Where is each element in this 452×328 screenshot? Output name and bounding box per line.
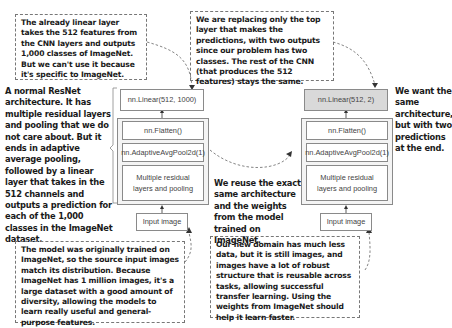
right-linear-layer: nn.Linear(512, 2)	[304, 89, 388, 111]
note-normal-resnet: A normal ResNet architecture. It has mul…	[5, 86, 117, 246]
note-want-same-architecture: We want the same architecture, but with …	[395, 86, 452, 154]
right-pool-layer: nn.AdaptiveAvgPool2d(1)	[306, 143, 388, 162]
note-imagenet-linear-layer: The already linear layer takes the 512 f…	[15, 14, 147, 80]
right-input-image: Input image	[320, 213, 372, 231]
right-residual-layers: Multiple residual layers and pooling	[306, 165, 388, 201]
left-flatten-layer: nn.Flatten()	[122, 121, 204, 140]
right-flatten-layer: nn.Flatten()	[306, 121, 388, 140]
left-input-image: Input image	[136, 213, 188, 231]
note-replacing-top-layer: We are replacing only the top layer that…	[190, 11, 334, 81]
note-new-domain: Our new domain has much less data, but i…	[210, 236, 360, 318]
note-original-training: The model was originally trained on Imag…	[15, 241, 185, 323]
left-linear-layer: nn.Linear(512, 1000)	[120, 89, 204, 111]
left-pool-layer: nn.AdaptiveAvgPool2d(1)	[122, 143, 204, 162]
left-residual-layers: Multiple residual layers and pooling	[122, 165, 204, 201]
